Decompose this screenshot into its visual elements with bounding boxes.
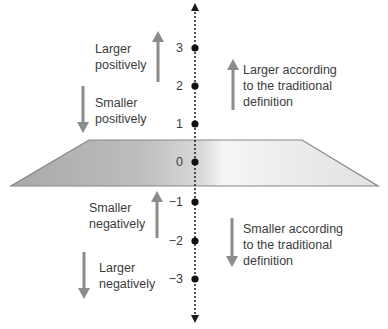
arrow-down-smaller-traditional-icon xyxy=(226,218,238,267)
label-line: to the traditional xyxy=(243,237,343,253)
axis-up-arrowhead-icon xyxy=(191,3,199,11)
diagram-canvas xyxy=(0,0,388,329)
point-neg1 xyxy=(191,198,198,205)
label-line: positively xyxy=(95,111,146,127)
label-smaller-traditional: Smaller according to the traditional def… xyxy=(243,221,343,269)
label-line: Smaller according xyxy=(243,221,343,237)
label-line: to the traditional xyxy=(243,78,337,94)
label-smaller-negatively: Smaller negatively xyxy=(89,200,145,232)
axis-down-arrowhead-icon xyxy=(191,315,199,323)
arrow-down-smaller-positively-icon xyxy=(77,86,89,133)
label-larger-positively: Larger positively xyxy=(95,41,146,73)
label-larger-negatively: Larger negatively xyxy=(99,260,155,292)
label-line: positively xyxy=(95,57,146,73)
label-line: Smaller xyxy=(89,200,145,216)
label-line: definition xyxy=(243,94,337,110)
tick-label-neg2: −2 xyxy=(153,234,183,248)
label-line: negatively xyxy=(99,276,155,292)
point-3 xyxy=(191,44,198,51)
point-2 xyxy=(191,82,198,89)
label-larger-traditional: Larger according to the traditional defi… xyxy=(243,62,337,110)
arrow-down-larger-negatively-icon xyxy=(78,252,90,299)
label-smaller-positively: Smaller positively xyxy=(95,95,146,127)
label-line: Larger xyxy=(99,260,155,276)
tick-label-1: 1 xyxy=(153,117,183,131)
tick-label-neg3: −3 xyxy=(153,272,183,286)
label-line: Larger xyxy=(95,41,146,57)
label-line: definition xyxy=(243,253,343,269)
tick-label-2: 2 xyxy=(153,79,183,93)
tick-label-neg1: −1 xyxy=(153,195,183,209)
label-line: Larger according xyxy=(243,62,337,78)
tick-label-0: 0 xyxy=(153,155,183,169)
label-line: Smaller xyxy=(95,95,146,111)
point-1 xyxy=(191,120,198,127)
arrow-up-larger-traditional-icon xyxy=(227,59,239,110)
label-line: negatively xyxy=(89,216,145,232)
point-neg3 xyxy=(191,275,198,282)
arrow-up-larger-positively-icon xyxy=(152,31,164,82)
tick-label-3: 3 xyxy=(153,41,183,55)
point-neg2 xyxy=(191,237,198,244)
point-0 xyxy=(191,158,198,165)
